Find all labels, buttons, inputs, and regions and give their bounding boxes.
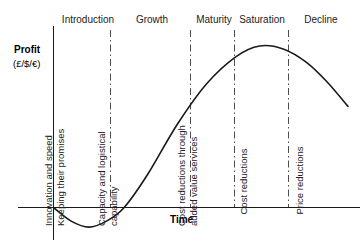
y-axis-title: Profit: [14, 44, 40, 56]
annotation-maturity-line1: Cost reductions through: [176, 125, 188, 226]
stage-label-decline: Decline: [300, 14, 342, 26]
stage-label-maturity: Maturity: [193, 14, 235, 26]
annotation-saturation-line1: Cost reductions: [238, 148, 250, 214]
annotation-decline: Price reductions: [294, 146, 306, 214]
annotation-decline-line1: Price reductions: [294, 146, 306, 214]
annotation-introduction: Innovation and speed Keeping their promi…: [43, 129, 66, 226]
product-lifecycle-chart: Introduction Growth Maturity Saturation …: [0, 0, 360, 249]
annotation-maturity-line2: added value services: [188, 125, 200, 226]
annotation-growth-line2: capability: [108, 131, 120, 226]
annotation-introduction-line1: Innovation and speed: [43, 129, 55, 226]
y-axis-units: (£/$/€): [13, 58, 40, 69]
stage-label-introduction: Introduction: [58, 14, 118, 26]
stage-label-growth: Growth: [131, 14, 173, 26]
stage-label-saturation: Saturation: [236, 14, 288, 26]
annotation-saturation: Cost reductions: [238, 148, 250, 214]
annotation-growth: Capacity and logistical capability: [96, 131, 119, 226]
annotation-growth-line1: Capacity and logistical: [96, 131, 108, 226]
annotation-introduction-line2: Keeping their promises: [55, 129, 67, 226]
annotation-maturity: Cost reductions through added value serv…: [176, 125, 199, 226]
